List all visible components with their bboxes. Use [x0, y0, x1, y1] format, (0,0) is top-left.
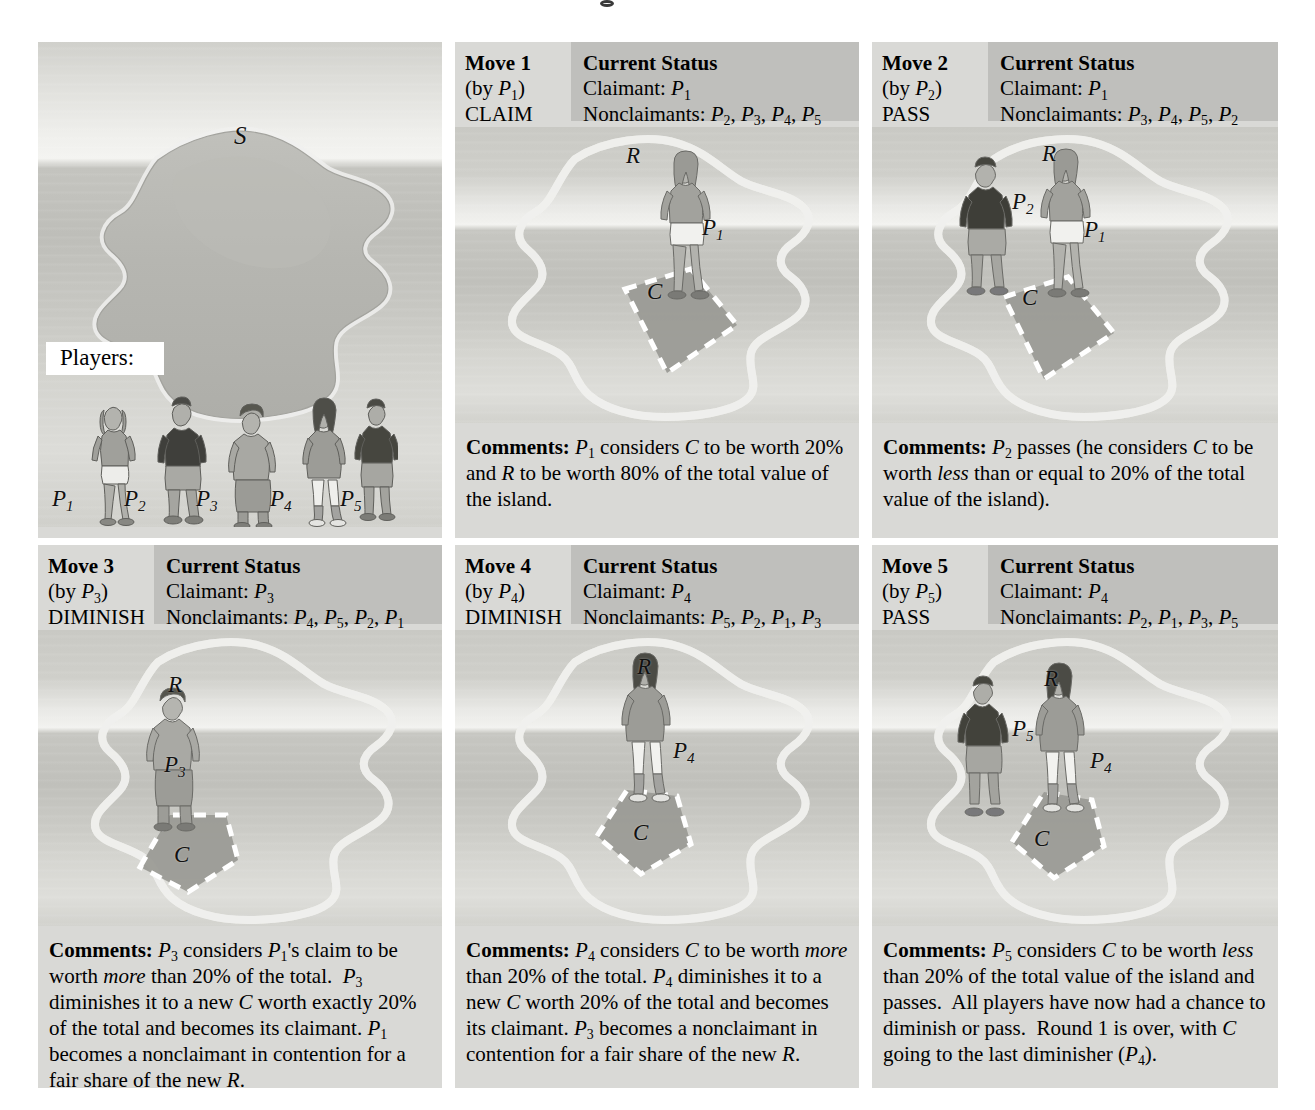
- move-2-action: PASS: [882, 102, 988, 127]
- move-3-by: (by P3): [48, 579, 154, 604]
- label-region-c: C: [1034, 826, 1049, 852]
- move-3-scene: R C P3: [38, 630, 442, 926]
- move-4-nonclaimants: Nonclaimants: P5, P2, P1, P3: [583, 605, 859, 630]
- move-4-action: DIMINISH: [465, 605, 571, 630]
- move-5-comments-head: Comments:: [883, 938, 987, 962]
- move-2-scene: R C P2 P1: [872, 127, 1278, 423]
- move-4-by: (by P4): [465, 579, 571, 604]
- move-1-by: (by P1): [465, 76, 571, 101]
- players-tag: Players:: [46, 342, 164, 375]
- label-region-c: C: [647, 279, 662, 305]
- move-3-claimant: Claimant: P3: [166, 579, 442, 604]
- move-2-status-title: Current Status: [1000, 51, 1278, 76]
- move-5-header: Move 5 (by P5) PASS Current Status Claim…: [872, 545, 1278, 630]
- move-3-label: Move 3: [48, 554, 154, 579]
- move-5-status: Current Status Claimant: P4 Nonclaimants…: [988, 545, 1278, 624]
- move-2-header: Move 2 (by P2) PASS Current Status Claim…: [872, 42, 1278, 127]
- move-2-header-left: Move 2 (by P2) PASS: [872, 42, 988, 127]
- label-region-c: C: [1022, 285, 1037, 311]
- move-4-status-title: Current Status: [583, 554, 859, 579]
- island-shape-move-3: [38, 630, 442, 926]
- figure-p4: [1024, 660, 1094, 825]
- figure-grid: S Players:: [38, 42, 1278, 1088]
- move-4-status: Current Status Claimant: P4 Nonclaimants…: [571, 545, 859, 624]
- label-player-2: P2: [124, 486, 146, 512]
- panel-move-1: Move 1 (by P1) CLAIM Current Status Clai…: [455, 42, 859, 538]
- move-5-comments: Comments: P5 considers C to be worth les…: [883, 938, 1273, 1068]
- label-region-r: R: [1042, 141, 1056, 167]
- move-3-status-title: Current Status: [166, 554, 442, 579]
- move-1-status-title: Current Status: [583, 51, 859, 76]
- move-2-comments-head: Comments:: [883, 435, 987, 459]
- move-3-nonclaimants: Nonclaimants: P4, P5, P2, P1: [166, 605, 442, 630]
- move-4-scene: R C P4: [455, 630, 859, 926]
- panel-move-5: Move 5 (by P5) PASS Current Status Claim…: [872, 545, 1278, 1088]
- label-figure-p1: P1: [702, 215, 724, 241]
- label-figure-p4: P4: [1090, 748, 1112, 774]
- label-region-r: R: [1044, 666, 1058, 692]
- move-4-header: Move 4 (by P4) DIMINISH Current Status C…: [455, 545, 859, 630]
- move-5-header-left: Move 5 (by P5) PASS: [872, 545, 988, 630]
- move-4-claimant: Claimant: P4: [583, 579, 859, 604]
- label-region-r: R: [626, 143, 640, 169]
- move-1-label: Move 1: [465, 51, 571, 76]
- move-1-header: Move 1 (by P1) CLAIM Current Status Clai…: [455, 42, 859, 127]
- move-1-comments-head: Comments:: [466, 435, 570, 459]
- move-2-comments: Comments: P2 passes (he considers C to b…: [883, 435, 1273, 513]
- move-5-label: Move 5: [882, 554, 988, 579]
- panel-move-2: Move 2 (by P2) PASS Current Status Claim…: [872, 42, 1278, 538]
- label-figure-p1: P1: [1084, 217, 1106, 243]
- move-1-status: Current Status Claimant: P1 Nonclaimants…: [571, 42, 859, 121]
- move-5-scene: R C P5 P4: [872, 630, 1278, 926]
- label-region-r: R: [168, 672, 182, 698]
- overview-scene: S Players:: [38, 42, 442, 527]
- move-4-label: Move 4: [465, 554, 571, 579]
- move-3-header: Move 3 (by P3) DIMINISH Current Status C…: [38, 545, 442, 630]
- move-1-nonclaimants: Nonclaimants: P2, P3, P4, P5: [583, 102, 859, 127]
- move-3-header-left: Move 3 (by P3) DIMINISH: [38, 545, 154, 630]
- move-1-header-left: Move 1 (by P1) CLAIM: [455, 42, 571, 127]
- move-1-action: CLAIM: [465, 102, 571, 127]
- label-region-c: C: [174, 842, 189, 868]
- label-figure-p3: P3: [164, 752, 186, 778]
- move-1-claimant: Claimant: P1: [583, 76, 859, 101]
- label-figure-p5: P5: [1012, 716, 1034, 742]
- label-region-c: C: [633, 820, 648, 846]
- move-5-status-title: Current Status: [1000, 554, 1278, 579]
- label-player-4: P4: [270, 486, 292, 512]
- move-2-nonclaimants: Nonclaimants: P3, P4, P5, P2: [1000, 102, 1278, 127]
- panel-move-3: Move 3 (by P3) DIMINISH Current Status C…: [38, 545, 442, 1088]
- move-3-status: Current Status Claimant: P3 Nonclaimants…: [154, 545, 442, 624]
- label-player-5: P5: [340, 486, 362, 512]
- scan-artifact: [600, 0, 614, 7]
- move-4-header-left: Move 4 (by P4) DIMINISH: [455, 545, 571, 630]
- move-3-comments: Comments: P3 considers P1's claim to be …: [49, 938, 434, 1088]
- move-3-action: DIMINISH: [48, 605, 154, 630]
- move-5-by: (by P5): [882, 579, 988, 604]
- move-2-claimant: Claimant: P1: [1000, 76, 1278, 101]
- move-1-comments: Comments: P1 considers C to be worth 20%…: [466, 435, 851, 513]
- panel-move-4: Move 4 (by P4) DIMINISH Current Status C…: [455, 545, 859, 1088]
- figure-p5: [950, 668, 1020, 828]
- label-region-r: R: [637, 654, 651, 680]
- label-figure-p4: P4: [673, 738, 695, 764]
- move-3-comments-head: Comments:: [49, 938, 153, 962]
- move-5-action: PASS: [882, 605, 988, 630]
- label-player-3: P3: [196, 486, 218, 512]
- move-5-nonclaimants: Nonclaimants: P2, P1, P3, P5: [1000, 605, 1278, 630]
- label-player-1: P1: [52, 486, 74, 512]
- panel-overview: S Players:: [38, 42, 442, 538]
- label-figure-p2: P2: [1012, 189, 1034, 215]
- move-4-comments-head: Comments:: [466, 938, 570, 962]
- label-island-s: S: [234, 122, 247, 150]
- move-2-label: Move 2: [882, 51, 988, 76]
- figure-p2: [950, 151, 1020, 311]
- move-2-by: (by P2): [882, 76, 988, 101]
- move-2-status: Current Status Claimant: P1 Nonclaimants…: [988, 42, 1278, 121]
- move-5-claimant: Claimant: P4: [1000, 579, 1278, 604]
- move-4-comments: Comments: P4 considers C to be worth mor…: [466, 938, 851, 1068]
- move-1-scene: R C P1: [455, 127, 859, 423]
